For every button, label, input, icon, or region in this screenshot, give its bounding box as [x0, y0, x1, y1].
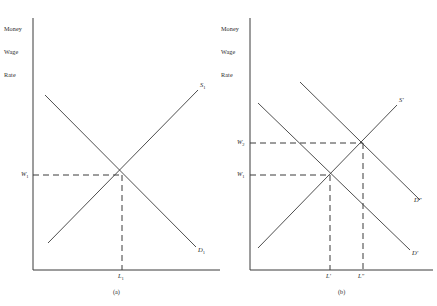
panel-b-demand-curve-shifted-label: D" — [414, 196, 422, 203]
panel-a-supply-curve-label: S1 — [200, 81, 206, 90]
panel-a-wage-tick-label: W1 — [21, 170, 29, 179]
panel-b-caption: (b) — [338, 288, 345, 295]
panel-b-y-axis-label-line-1: Money — [221, 25, 239, 33]
panel-b-demand-curve-initial — [258, 103, 410, 250]
panel-b-labor2-tick-label: L" — [358, 272, 364, 279]
panel-a-wage-tick-sub: 1 — [26, 174, 28, 179]
panel-b-labor1-tick-label: L' — [326, 272, 331, 279]
panel-b-y-axis-label: Money Wage Rate — [221, 10, 239, 94]
panel-b-y-axis-label-line-3: Rate — [221, 71, 239, 79]
panel-a-demand-curve — [45, 95, 196, 247]
panel-a-y-axis-label-line-2: Wage — [4, 48, 22, 56]
panel-b-wage1-tick-sub: 1 — [242, 174, 244, 179]
panel-b-group — [250, 18, 433, 270]
panel-a-y-axis-label-line-1: Money — [4, 25, 22, 33]
panel-a-supply-sub: 1 — [203, 85, 205, 90]
panel-a-labor-tick-sub: 1 — [122, 276, 124, 281]
panel-b-supply-curve-label: S' — [399, 96, 404, 103]
panel-a-group — [33, 18, 220, 270]
panel-a-demand-curve-label: D1 — [198, 246, 205, 255]
panel-a-demand-sub: 1 — [203, 250, 205, 255]
figure-container: Money Wage Rate W1 L1 S1 D1 (a) Money Wa… — [0, 0, 437, 306]
panel-a-labor-tick-label: L1 — [118, 272, 124, 281]
panel-a-caption: (a) — [113, 288, 120, 295]
panel-a-y-axis-label: Money Wage Rate — [4, 10, 22, 94]
panel-b-y-axis-label-line-2: Wage — [221, 48, 239, 56]
panel-b-demand-curve-initial-label: D' — [412, 249, 418, 256]
panel-b-wage2-tick-label: W2 — [237, 138, 245, 147]
panel-b-wage1-tick-label: W1 — [237, 170, 245, 179]
panel-b-wage2-tick-sub: 2 — [242, 142, 244, 147]
panel-b-supply-curve — [258, 105, 397, 248]
panel-a-y-axis-label-line-3: Rate — [4, 71, 22, 79]
panel-a-supply-curve — [48, 90, 198, 243]
economics-diagram-svg — [0, 0, 437, 306]
